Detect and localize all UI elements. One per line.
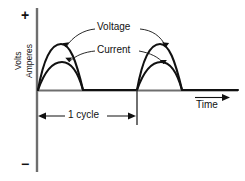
series-curve-current (38, 62, 182, 90)
series-curve-voltage (38, 44, 238, 90)
series-label-current: Current (97, 45, 130, 55)
cycle-arrowhead-left (38, 113, 46, 120)
series-label-voltage: Voltage (97, 22, 130, 32)
axis-polarity-positive: + (21, 8, 29, 22)
cycle-span-label: 1 cycle (68, 110, 99, 120)
y-axis-label-volts: Volts (14, 52, 23, 70)
cycle-arrowhead-right (128, 113, 136, 120)
x-axis-label-time: Time (196, 100, 218, 110)
axis-polarity-negative: − (21, 157, 29, 171)
time-arrowhead (222, 94, 230, 101)
y-axis-label-amperes: Amperes (25, 44, 34, 78)
waveform-figure: + − Volts Amperes Voltage Current 1 cycl… (0, 0, 245, 181)
